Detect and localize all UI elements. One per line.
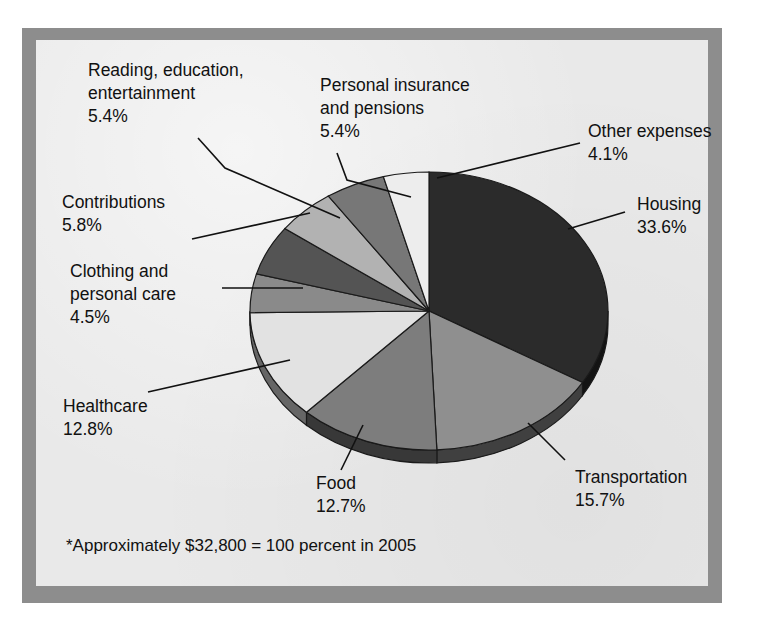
- label-housing-line1: Housing: [637, 194, 701, 214]
- label-food-line1: Food: [316, 473, 356, 493]
- label-personal-insurance-line2: and pensions: [320, 98, 424, 118]
- label-clothing-line2: personal care: [70, 284, 176, 304]
- label-personal-insurance-line1: Personal insurance: [320, 75, 470, 95]
- label-transportation-value: 15.7%: [575, 490, 625, 510]
- label-reading-line2: entertainment: [88, 83, 195, 103]
- figure-root: Reading, education, entertainment 5.4% P…: [0, 0, 760, 632]
- label-healthcare-line1: Healthcare: [63, 396, 148, 416]
- label-clothing-value: 4.5%: [70, 307, 110, 327]
- label-reading-value: 5.4%: [88, 106, 128, 126]
- label-other-expenses-value: 4.1%: [588, 144, 628, 164]
- footnote: *Approximately $32,800 = 100 percent in …: [66, 536, 416, 555]
- label-contributions-value: 5.8%: [62, 215, 102, 235]
- pie-chart-svg: Reading, education, entertainment 5.4% P…: [0, 0, 760, 632]
- label-personal-insurance-value: 5.4%: [320, 121, 360, 141]
- label-clothing-line1: Clothing and: [70, 261, 168, 281]
- leader-line-other-expenses: [437, 143, 580, 178]
- label-healthcare-value: 12.8%: [63, 419, 113, 439]
- leader-line-housing: [568, 212, 625, 229]
- label-contributions-line1: Contributions: [62, 192, 165, 212]
- label-housing-value: 33.6%: [637, 217, 687, 237]
- label-reading-line1: Reading, education,: [88, 60, 244, 80]
- label-food-value: 12.7%: [316, 496, 366, 516]
- label-transportation-line1: Transportation: [575, 467, 687, 487]
- label-other-expenses-line1: Other expenses: [588, 121, 712, 141]
